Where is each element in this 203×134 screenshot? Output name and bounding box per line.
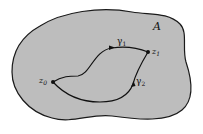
point-z1 <box>146 50 150 54</box>
point-z0 <box>51 80 55 84</box>
label-region-a: A <box>152 20 161 33</box>
region-a <box>12 10 191 120</box>
diagram-canvas: A γ1 γ2 z0 z1 <box>0 0 203 134</box>
